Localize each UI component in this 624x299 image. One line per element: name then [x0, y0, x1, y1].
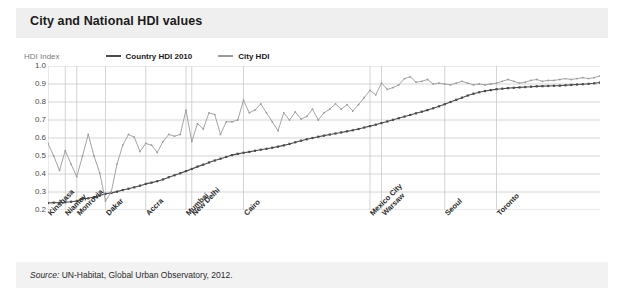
y-tick-label: 0.9	[24, 79, 46, 88]
y-tick-label: 0.7	[24, 115, 46, 124]
legend-swatch-city-icon	[218, 55, 233, 57]
chart-canvas	[48, 66, 600, 210]
y-tick-label: 1.0	[24, 61, 46, 70]
source-note: Source: UN-Habitat, Global Urban Observa…	[30, 270, 233, 280]
y-axis-tick-labels: 1.00.90.80.70.60.50.40.30.2	[22, 66, 46, 210]
figure-title: City and National HDI values	[30, 14, 202, 28]
y-tick-label: 0.5	[24, 151, 46, 160]
legend-label-country: Country HDI 2010	[126, 52, 193, 61]
series-country-hdi	[48, 81, 600, 204]
chart-legend: HDI Index Country HDI 2010 City HDI	[24, 50, 295, 62]
legend-swatch-country-icon	[106, 55, 121, 57]
y-axis-caption: HDI Index	[24, 52, 60, 61]
legend-item-city[interactable]: City HDI	[218, 52, 269, 61]
series-city-hdi	[48, 75, 600, 202]
y-tick-label: 0.6	[24, 133, 46, 142]
y-tick-label: 0.3	[24, 187, 46, 196]
y-tick-label: 0.4	[24, 169, 46, 178]
x-axis-tick-labels: KinshasaNiameyMonroviaDakarAccraMumbaiNe…	[0, 211, 624, 257]
legend-item-country[interactable]: Country HDI 2010	[106, 52, 193, 61]
source-prefix: Source:	[30, 270, 59, 280]
y-tick-label: 0.8	[24, 97, 46, 106]
source-body: UN-Habitat, Global Urban Observatory, 20…	[59, 270, 232, 280]
figure-card: City and National HDI values HDI Index C…	[0, 0, 624, 299]
plot-area	[48, 66, 600, 210]
legend-label-city: City HDI	[238, 52, 269, 61]
